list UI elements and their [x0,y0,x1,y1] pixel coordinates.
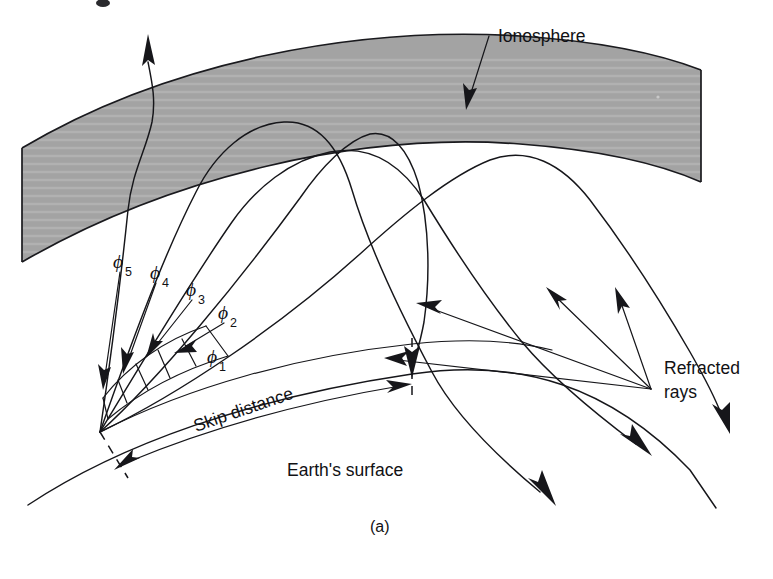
figure-container: ϕ 5 ϕ 4 ϕ 3 ϕ 2 ϕ 1 [0,0,773,579]
earth-surface-group [28,341,716,508]
refracted-leader-c [546,287,651,389]
phi1-symbol: ϕ [207,346,217,367]
ray-path-phi3 [100,150,652,456]
phi5-subscript: 5 [125,265,132,279]
phi4-subscript: 4 [162,276,169,290]
refracted-rays-label-line2: rays [664,382,697,402]
ray-phi3-arrowhead [620,424,652,456]
ray-phi1-arrowhead [712,402,730,434]
angle-tick-3 [158,350,170,378]
phi3-symbol: ϕ [186,279,196,300]
refracted-leader-d [615,287,651,389]
phi5-leader [98,272,120,390]
refracted-rays-label-line1: Refracted [664,358,740,378]
phi5-symbol: ϕ [113,251,123,272]
figure-caption: (a) [370,518,390,535]
scan-crop-fragment [96,0,110,7]
angle-tick-2 [136,364,148,390]
phi1-subscript: 1 [219,360,226,374]
ray-phi5-arrowhead [142,34,155,66]
phi2-symbol: ϕ [218,302,228,323]
skip-distance-label: Skip distance [191,383,296,436]
earth-surface-label: Earth's surface [287,460,403,480]
skip-distance-arrow-right [386,380,412,393]
phi2-subscript: 2 [230,316,237,330]
ionosphere-band [22,34,710,262]
ray-phi4-arrowhead [528,470,556,506]
refracted-rays-leaders [384,287,651,389]
ionosphere-propagation-diagram: ϕ 5 ϕ 4 ϕ 3 ϕ 2 ϕ 1 [0,0,773,579]
ionosphere-label: Ionosphere [498,26,586,46]
phi4-symbol: ϕ [150,262,160,283]
phi4-leader [121,283,156,374]
scan-speck [656,95,659,98]
earth-upper-arc [100,341,552,432]
skip-distance-left-marker [100,432,128,478]
phi3-subscript: 3 [198,293,205,307]
